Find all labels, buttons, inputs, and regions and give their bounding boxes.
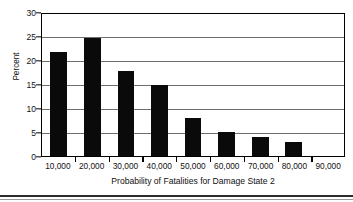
bar-slot: [277, 14, 311, 156]
bar: [252, 137, 269, 156]
page-divider: [0, 195, 353, 197]
x-tick-label: 60,000: [210, 161, 244, 173]
bar: [218, 132, 235, 156]
x-tick-label: 40,000: [142, 161, 176, 173]
bar-slot: [243, 14, 277, 156]
bar: [84, 38, 101, 156]
y-tick-label: 30: [27, 9, 36, 18]
page-divider-secondary: [0, 199, 353, 200]
y-tick-label: 25: [27, 33, 36, 42]
bar-series: [42, 14, 344, 156]
x-tick-label: 20,000: [75, 161, 109, 173]
bar: [185, 118, 202, 156]
bar-slot: [311, 14, 345, 156]
x-axis-tick-labels: 10,000 20,000 30,000 40,000 50,000 60,00…: [41, 161, 345, 173]
bar-slot: [76, 14, 110, 156]
bar: [50, 52, 67, 156]
plot-area: [41, 13, 345, 157]
x-axis-title: Probability of Fatalities for Damage Sta…: [41, 176, 345, 186]
bar-slot: [176, 14, 210, 156]
x-tick-label: 30,000: [109, 161, 143, 173]
bar-slot: [143, 14, 177, 156]
x-tick-label: 50,000: [176, 161, 210, 173]
x-tick-label: 90,000: [311, 161, 345, 173]
bar: [151, 85, 168, 156]
bar: [118, 71, 135, 156]
bar: [285, 142, 302, 156]
y-tick-label: 10: [27, 105, 36, 114]
bar-slot: [109, 14, 143, 156]
y-tick-label: 20: [27, 57, 36, 66]
bar-slot: [210, 14, 244, 156]
y-axis-tick-labels: 0 5 10 15 20 25 30: [12, 13, 36, 157]
y-tick-label: 15: [27, 81, 36, 90]
chart-figure: Percent 0 5 10 15 20 25 30: [0, 0, 353, 202]
x-tick-label: 10,000: [41, 161, 75, 173]
x-tick-label: 70,000: [244, 161, 278, 173]
x-tick-label: 80,000: [277, 161, 311, 173]
bar-slot: [42, 14, 76, 156]
